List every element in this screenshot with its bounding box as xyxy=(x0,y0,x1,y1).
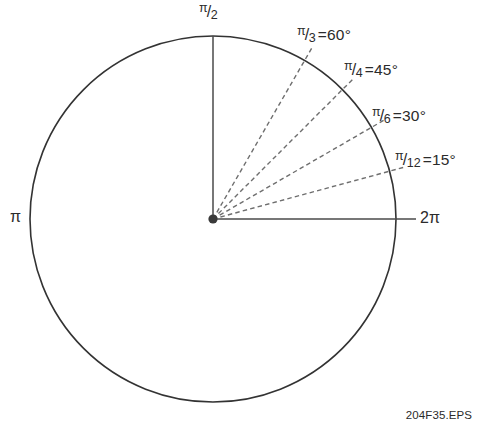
dashed-ray-pi-fourth xyxy=(213,78,354,219)
label-pi-sixth: π/6=30° xyxy=(372,106,426,126)
equals-sign: = xyxy=(365,61,374,78)
unit-circle-diagram xyxy=(0,0,478,429)
fraction-denominator: 6 xyxy=(384,112,391,126)
circle-center-dot xyxy=(208,214,217,223)
degree-value: 30° xyxy=(402,107,426,124)
fraction-denominator: 3 xyxy=(309,31,316,45)
fraction-denominator: 2 xyxy=(211,8,218,22)
degree-value: 45° xyxy=(374,61,398,78)
unit-circle-figure: π/2 π/3=60° π/4=45° π/6=30° π/12=15° 2π … xyxy=(0,0,478,429)
label-pi-twelfth: π/12=15° xyxy=(395,150,456,170)
fraction-pi-twelfth: π/12 xyxy=(395,150,421,170)
fraction-pi-third: π/3 xyxy=(297,25,316,45)
degree-value: 15° xyxy=(432,151,456,168)
figure-caption: 204F35.EPS xyxy=(406,409,472,421)
label-pi-half: π/2 xyxy=(199,2,218,22)
label-pi-third: π/3=60° xyxy=(297,25,351,45)
fraction-pi-sixth: π/6 xyxy=(372,106,391,126)
equals-sign: = xyxy=(393,107,402,124)
label-pi: π xyxy=(10,209,21,225)
dashed-ray-pi-third xyxy=(213,46,313,219)
equals-sign: = xyxy=(318,26,327,43)
fraction-pi-half: π/2 xyxy=(199,2,218,22)
dashed-ray-pi-sixth xyxy=(213,119,386,219)
label-pi-fourth: π/4=45° xyxy=(344,60,398,80)
fraction-pi-fourth: π/4 xyxy=(344,60,363,80)
equals-sign: = xyxy=(423,151,432,168)
fraction-denominator: 12 xyxy=(407,156,421,170)
fraction-denominator: 4 xyxy=(356,66,363,80)
dashed-ray-pi-twelfth xyxy=(213,167,405,219)
label-two-pi: 2π xyxy=(420,210,440,226)
degree-value: 60° xyxy=(327,26,351,43)
